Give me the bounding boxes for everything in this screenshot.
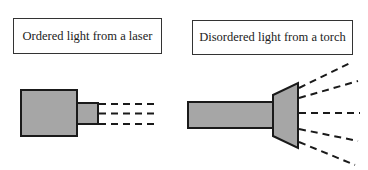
laser-icon bbox=[21, 90, 155, 136]
torch-beams bbox=[299, 62, 360, 165]
torch-icon bbox=[188, 62, 360, 165]
laser-beams bbox=[99, 104, 155, 124]
diagram-canvas bbox=[0, 0, 368, 170]
